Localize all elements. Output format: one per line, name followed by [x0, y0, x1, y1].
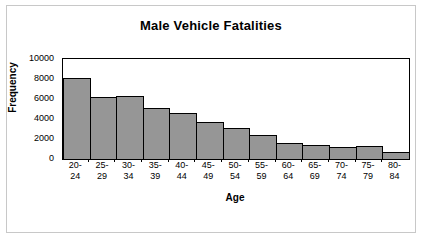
y-axis-tick-label: 10000 — [29, 53, 54, 63]
y-axis-tick-label: 0 — [49, 153, 54, 163]
x-axis-tick-label: 70-74 — [328, 160, 355, 182]
bar — [249, 135, 277, 159]
bar — [196, 122, 224, 160]
chart-title: Male Vehicle Fatalities — [0, 18, 422, 33]
x-axis-tick-label: 65-69 — [301, 160, 328, 182]
y-axis-tick-label: 8000 — [34, 73, 54, 83]
bar — [382, 152, 410, 159]
x-axis-tick-label: 30-34 — [115, 160, 142, 182]
bar — [90, 97, 118, 159]
x-axis-tick-label: 75-79 — [355, 160, 382, 182]
x-axis-tick-label: 25-29 — [89, 160, 116, 182]
bar — [169, 113, 197, 160]
x-axis-tick-label: 55-59 — [248, 160, 275, 182]
x-axis-tick-label: 45-49 — [195, 160, 222, 182]
x-axis-tick-label: 20-24 — [62, 160, 89, 182]
bar — [276, 143, 304, 159]
chart-page: Male Vehicle Fatalities 1000080006000400… — [0, 0, 422, 239]
bars-container — [63, 59, 409, 159]
x-axis-tick-label: 60-64 — [275, 160, 302, 182]
bar — [63, 78, 91, 159]
y-axis-tick-label: 2000 — [34, 133, 54, 143]
bar — [143, 108, 171, 160]
y-axis-tick-label: 6000 — [34, 93, 54, 103]
bar — [356, 146, 384, 159]
x-axis-tick-label: 35-39 — [142, 160, 169, 182]
x-axis-tick-label: 80-84 — [381, 160, 408, 182]
bar — [302, 145, 330, 159]
bar — [329, 147, 357, 160]
x-axis-tick-label: 50-54 — [222, 160, 249, 182]
x-axis-title: Age — [62, 192, 408, 203]
x-axis-tick-labels: 20-2425-2930-3435-3940-4445-4950-5455-59… — [62, 160, 408, 182]
x-axis-tick-label: 40-44 — [168, 160, 195, 182]
y-axis-title: Frequency — [7, 58, 18, 118]
bar — [116, 96, 144, 159]
bar — [223, 128, 251, 159]
plot-frame — [62, 58, 410, 160]
y-axis-tick-label: 4000 — [34, 113, 54, 123]
